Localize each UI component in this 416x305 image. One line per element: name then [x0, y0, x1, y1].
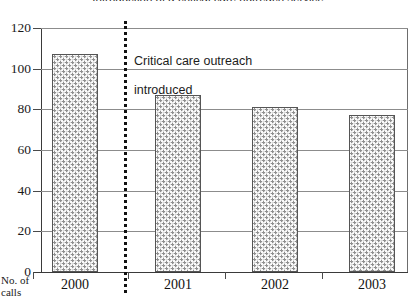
y-axis-title: No. of calls — [1, 275, 41, 298]
x-axis-label-2002: 2002 — [240, 277, 310, 293]
x-axis-label-2000: 2000 — [40, 277, 110, 293]
y-axis-label-100: 100 — [1, 62, 31, 76]
gridline-120 — [41, 28, 408, 29]
y-tick-40 — [33, 191, 41, 192]
y-axis-label-120: 120 — [1, 21, 31, 35]
y-tick-60 — [33, 150, 41, 151]
x-tick-1 — [128, 272, 129, 279]
y-axis-label-80: 80 — [1, 102, 31, 116]
y-axis-label-40: 40 — [1, 184, 31, 198]
bar-chart: Introduction of a critical care outreach… — [0, 0, 416, 305]
bar-2003 — [349, 115, 395, 272]
y-axis-title-line2: calls — [1, 287, 41, 299]
event-annotation: Critical care outreach introduced — [134, 39, 252, 112]
event-annotation-line2: introduced — [134, 83, 252, 98]
y-axis-label-60: 60 — [1, 143, 31, 157]
y-axis-title-line1: No. of — [1, 275, 41, 287]
y-tick-100 — [33, 69, 41, 70]
x-axis-line — [33, 272, 408, 273]
chart-title: Introduction of a critical care outreach… — [0, 0, 416, 1]
x-tick-2 — [225, 272, 226, 279]
bar-2002 — [252, 107, 298, 272]
x-tick-3 — [322, 272, 323, 279]
x-axis-label-2001: 2001 — [143, 277, 213, 293]
y-tick-80 — [33, 109, 41, 110]
y-tick-20 — [33, 231, 41, 232]
event-marker-line — [124, 21, 127, 293]
bar-2001 — [155, 95, 201, 272]
bar-2000 — [52, 54, 98, 272]
y-axis-label-20: 20 — [1, 224, 31, 238]
x-axis-label-2003: 2003 — [337, 277, 407, 293]
y-tick-120 — [33, 28, 41, 29]
event-annotation-line1: Critical care outreach — [134, 54, 252, 69]
